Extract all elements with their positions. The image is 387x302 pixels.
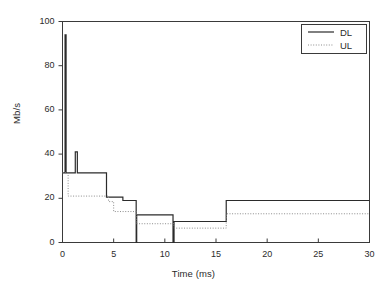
legend-label-dl: DL [340,26,352,40]
y-axis-ticks [59,22,63,243]
legend-swatch-dotted [307,40,335,50]
y-tick-label: 100 [25,16,55,26]
x-tick-label: 20 [252,249,282,259]
legend: DL UL [301,24,367,54]
x-axis-label: Time (ms) [0,268,387,279]
y-tick-label: 60 [25,104,55,114]
x-axis-ticks [63,239,370,243]
x-tick-label: 0 [48,249,78,259]
x-tick-label: 10 [150,249,180,259]
legend-swatch-solid [307,27,335,37]
x-tick-label: 30 [355,249,385,259]
chart-figure: Time (ms) Mb/s 051015202530 020406080100… [0,0,387,302]
y-tick-label: 40 [25,148,55,158]
y-tick-label: 80 [25,60,55,70]
legend-label-ul: UL [340,39,352,53]
legend-item-ul: UL [302,40,368,54]
x-tick-label: 25 [303,249,333,259]
y-tick-label: 20 [25,192,55,202]
x-tick-label: 15 [201,249,231,259]
data-series-group [63,35,370,243]
y-axis-label: Mb/s [11,84,22,144]
y-tick-label: 0 [25,237,55,247]
legend-item-dl: DL [302,27,368,41]
x-tick-label: 5 [99,249,129,259]
plot-frame [63,22,370,243]
series-line-dl [63,35,370,243]
